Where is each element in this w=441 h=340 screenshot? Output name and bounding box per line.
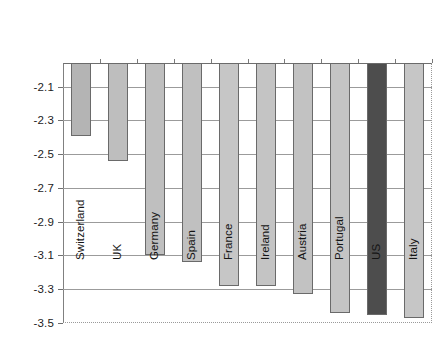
x-tick-mark [395,59,396,63]
y-tick-label: -3.5 [33,317,54,329]
bar-switzerland[interactable] [71,63,91,136]
bar-uk[interactable] [108,63,128,161]
y-tick-label: -2.3 [33,114,54,126]
category-label-france: France [222,224,234,260]
bar-us[interactable] [367,63,387,315]
y-tick-mark [58,188,63,189]
x-tick-mark [137,59,138,63]
x-tick-mark [321,59,322,63]
y-tick-mark [58,289,63,290]
y-tick-label: -2.7 [33,182,54,194]
y-tick-mark [58,222,63,223]
category-label-germany: Germany [148,212,160,260]
x-tick-mark [100,59,101,63]
x-tick-mark [432,59,433,63]
y-tick-mark [58,87,63,88]
bar-italy[interactable] [404,63,424,318]
category-label-switzerland: Switzerland [74,199,86,260]
bar-chart: -2.1-2.3-2.5-2.7-2.9-3.1-3.3-3.5 Switzer… [0,0,441,340]
y-tick-label: -2.1 [33,81,54,93]
y-tick-mark [58,255,63,256]
y-tick-label: -3.1 [33,249,54,261]
category-label-ireland: Ireland [259,224,271,260]
y-axis-tick-labels: -2.1-2.3-2.5-2.7-2.9-3.1-3.3-3.5 [0,63,63,323]
category-label-portugal: Portugal [333,216,345,260]
category-label-uk: UK [111,244,123,260]
x-tick-mark [248,59,249,63]
category-label-austria: Austria [296,224,308,261]
bar-portugal[interactable] [330,63,350,313]
y-tick-label: -2.5 [33,148,54,160]
plot-area: SwitzerlandUKGermanySpainFranceIrelandAu… [63,63,432,323]
x-tick-mark [211,59,212,63]
x-tick-mark [174,59,175,63]
y-tick-mark [58,323,63,324]
category-label-us: US [370,244,382,260]
category-label-italy: Italy [407,238,419,260]
y-tick-label: -3.3 [33,283,54,295]
x-tick-mark [358,59,359,63]
y-tick-label: -2.9 [33,216,54,228]
x-tick-mark [284,59,285,63]
y-tick-mark [58,120,63,121]
category-label-spain: Spain [185,230,197,260]
y-tick-mark [58,154,63,155]
